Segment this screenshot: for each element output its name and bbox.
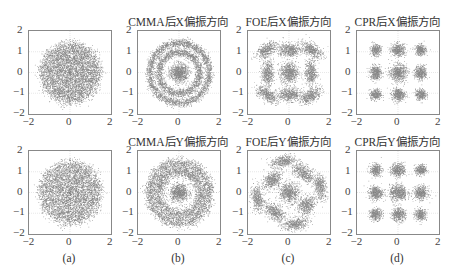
panel-title: CMMA后Y偏振方向 — [117, 133, 239, 149]
y-tick-label: −1 — [232, 86, 244, 97]
x-tick-label: 2 — [435, 116, 441, 127]
panel-title: CPR后Y偏振方向 — [336, 133, 454, 149]
y-tick-label: 2 — [345, 24, 351, 35]
y-tick-label: 0 — [345, 186, 351, 197]
scatter-points — [29, 31, 111, 114]
scatter-plot-area — [137, 30, 221, 115]
panel-title: CMMA后X偏振方向 — [117, 13, 239, 29]
scatter-points — [248, 31, 330, 114]
y-tick-label: 2 — [236, 24, 242, 35]
x-tick-label: 0 — [394, 236, 400, 247]
x-tick-label: 0 — [66, 236, 72, 247]
y-tick-label: 1 — [345, 45, 351, 56]
x-tick-label: 2 — [326, 236, 332, 247]
x-tick-label: 0 — [285, 236, 291, 247]
panel-title: CPR后X偏振方向 — [336, 13, 454, 29]
x-tick-label: 0 — [175, 236, 181, 247]
y-tick-label: 1 — [345, 165, 351, 176]
x-tick-label: −2 — [132, 236, 144, 247]
y-tick-label: 0 — [126, 186, 132, 197]
scatter-plot-area — [28, 150, 112, 235]
y-tick-label: −1 — [341, 206, 353, 217]
scatter-plot-area — [28, 30, 112, 115]
x-tick-label: 2 — [216, 116, 222, 127]
x-tick-label: −2 — [242, 236, 254, 247]
panel-caption: (c) — [268, 252, 308, 264]
panel-caption: (a) — [49, 252, 89, 264]
x-tick-label: 0 — [66, 116, 72, 127]
scatter-points — [138, 31, 220, 114]
x-tick-label: 0 — [175, 116, 181, 127]
x-tick-label: 2 — [107, 236, 113, 247]
scatter-plot-area — [356, 150, 440, 235]
y-tick-label: 1 — [17, 165, 23, 176]
scatter-plot-area — [356, 30, 440, 115]
y-tick-label: −1 — [341, 86, 353, 97]
y-tick-label: −1 — [122, 86, 134, 97]
panel-title: FOE后X偏振方向 — [227, 13, 349, 29]
y-tick-label: 2 — [126, 24, 132, 35]
y-tick-label: −1 — [13, 206, 25, 217]
x-tick-label: −2 — [351, 236, 363, 247]
y-tick-label: 0 — [236, 66, 242, 77]
panel-caption: (b) — [158, 252, 198, 264]
scatter-plot-area — [247, 150, 331, 235]
x-tick-label: −2 — [23, 116, 35, 127]
y-tick-label: 2 — [17, 24, 23, 35]
y-tick-label: 0 — [126, 66, 132, 77]
y-tick-label: 1 — [126, 45, 132, 56]
panel-title: FOE后Y偏振方向 — [227, 133, 349, 149]
scatter-plot-area — [247, 30, 331, 115]
panel-caption: (d) — [377, 252, 417, 264]
y-tick-label: 0 — [17, 66, 23, 77]
y-tick-label: −1 — [232, 206, 244, 217]
x-tick-label: 2 — [326, 116, 332, 127]
scatter-points — [357, 151, 439, 234]
x-tick-label: 2 — [107, 116, 113, 127]
y-tick-label: 2 — [345, 144, 351, 155]
y-tick-label: 0 — [17, 186, 23, 197]
x-tick-label: −2 — [23, 236, 35, 247]
x-tick-label: −2 — [351, 116, 363, 127]
y-tick-label: 2 — [17, 144, 23, 155]
scatter-points — [138, 151, 220, 234]
y-tick-label: 1 — [126, 165, 132, 176]
y-tick-label: −1 — [122, 206, 134, 217]
scatter-plot-area — [137, 150, 221, 235]
x-tick-label: 2 — [216, 236, 222, 247]
x-tick-label: 0 — [394, 116, 400, 127]
scatter-points — [29, 151, 111, 234]
y-tick-label: 0 — [345, 66, 351, 77]
x-tick-label: −2 — [242, 116, 254, 127]
scatter-points — [248, 151, 330, 234]
x-tick-label: −2 — [132, 116, 144, 127]
y-tick-label: 1 — [17, 45, 23, 56]
y-tick-label: 2 — [126, 144, 132, 155]
x-tick-label: 2 — [435, 236, 441, 247]
y-tick-label: 1 — [236, 45, 242, 56]
x-tick-label: 0 — [285, 116, 291, 127]
y-tick-label: 2 — [236, 144, 242, 155]
scatter-points — [357, 31, 439, 114]
y-tick-label: −1 — [13, 86, 25, 97]
y-tick-label: 0 — [236, 186, 242, 197]
y-tick-label: 1 — [236, 165, 242, 176]
